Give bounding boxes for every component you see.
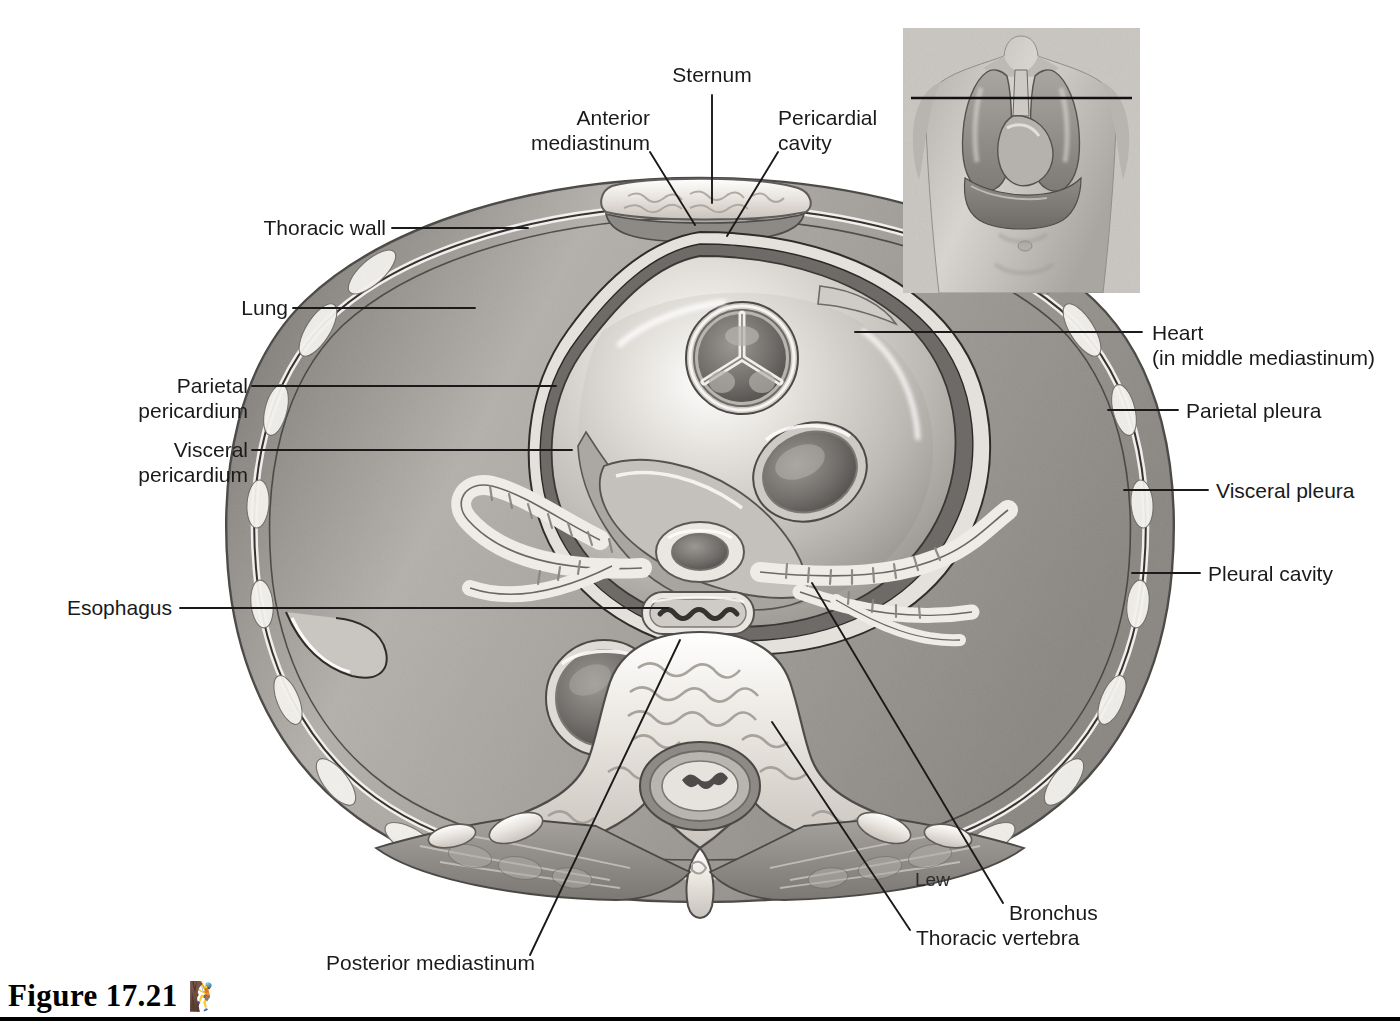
label-visceral-pericardium: Visceral pericardium [90, 437, 248, 487]
inset-torso-illustration [903, 28, 1140, 293]
caption-rule [0, 1017, 1400, 1021]
aortic-valve [686, 302, 798, 414]
label-thoracic-wall: Thoracic wall [206, 215, 386, 240]
tracheal-lumen [656, 522, 744, 582]
figure-caption-text: Figure 17.21 [8, 978, 178, 1013]
figure-root: Lew [0, 0, 1400, 1031]
label-bronchus: Bronchus [1009, 900, 1169, 925]
label-pericardial-cavity: Pericardial cavity [778, 105, 958, 155]
label-posterior-mediastinum: Posterior mediastinum [295, 950, 535, 975]
label-parietal-pericardium: Parietal pericardium [90, 373, 248, 423]
label-parietal-pleura: Parietal pleura [1186, 398, 1376, 423]
label-sternum: Sternum [652, 62, 772, 87]
label-thoracic-vertebra: Thoracic vertebra [916, 925, 1136, 950]
label-anterior-mediastinum: Anterior mediastinum [490, 105, 650, 155]
figure-caption: Figure 17.21🧗 [8, 978, 223, 1014]
thorax-cross-section-illustration: Lew [0, 0, 1400, 1031]
esophagus [642, 592, 754, 634]
label-visceral-pleura: Visceral pleura [1216, 478, 1400, 503]
label-lung: Lung [160, 295, 288, 320]
artist-signature: Lew [915, 869, 950, 890]
orientation-inset [903, 28, 1140, 293]
label-heart: Heart (in middle mediastinum) [1152, 320, 1400, 370]
label-esophagus: Esophagus [40, 595, 172, 620]
label-pleural-cavity: Pleural cavity [1208, 561, 1398, 586]
human-figure-icon: 🧗 [188, 980, 223, 1013]
